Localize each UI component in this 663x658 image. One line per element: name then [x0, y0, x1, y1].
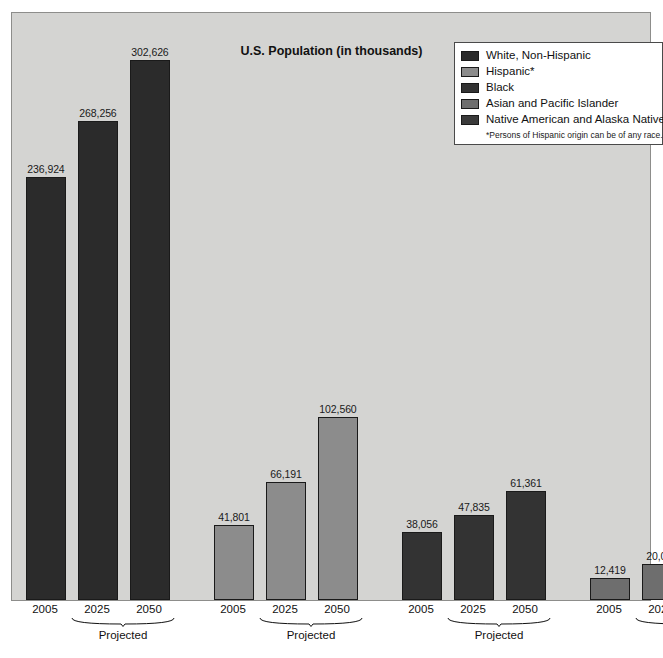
axis-tick-label: 2025 — [443, 603, 503, 615]
axis-tick-label: 2050 — [307, 603, 367, 615]
projected-brace-icon — [635, 618, 663, 627]
bar — [642, 564, 663, 600]
bar — [266, 482, 306, 600]
bar — [214, 525, 254, 600]
legend-item: Native American and Alaska Natives — [461, 112, 656, 127]
bar-value-label: 61,361 — [494, 477, 558, 489]
bar — [130, 60, 170, 600]
legend-item-label: Asian and Pacific Islander — [486, 97, 618, 110]
bar — [506, 491, 546, 600]
projected-label: Projected — [427, 629, 571, 641]
bar-value-label: 38,056 — [390, 518, 454, 530]
x-axis-title: U.S. Population (in thousands) — [0, 44, 663, 58]
axis-tick-label: 2025 — [255, 603, 315, 615]
axis-tick-label: 2050 — [119, 603, 179, 615]
axis-tick-label: 2050 — [495, 603, 555, 615]
legend-item-label: Hispanic* — [486, 65, 535, 78]
legend-items: White, Non-HispanicHispanic*BlackAsian a… — [461, 48, 656, 127]
legend-swatch-icon — [461, 83, 479, 93]
projected-brace-icon — [71, 618, 175, 627]
axis-tick-label: 2005 — [15, 603, 75, 615]
projected-label: Projected — [51, 629, 195, 641]
projected-brace-icon — [259, 618, 363, 627]
bar — [454, 515, 494, 600]
legend-item-label: Native American and Alaska Natives — [486, 113, 663, 126]
projected-brace-icon — [447, 618, 551, 627]
bar-value-label: 102,560 — [306, 403, 370, 415]
bar-chart: 236,924268,256302,62641,80166,191102,560… — [0, 0, 663, 658]
bar — [590, 578, 630, 600]
legend-swatch-icon — [461, 115, 479, 125]
legend-swatch-icon — [461, 99, 479, 109]
legend-item-label: Black — [486, 81, 514, 94]
bar-value-label: 66,191 — [254, 468, 318, 480]
bar-value-label: 12,419 — [578, 564, 642, 576]
bar-value-label: 47,835 — [442, 501, 506, 513]
axis-tick-label: 2025 — [67, 603, 127, 615]
bar-value-label: 268,256 — [66, 107, 130, 119]
projected-label: Projected — [615, 629, 663, 641]
bar-value-label: 20,089 — [630, 550, 663, 562]
legend-item: Hispanic* — [461, 64, 656, 79]
legend-footnote: *Persons of Hispanic origin can be of an… — [486, 130, 656, 140]
plot-area: 236,924268,256302,62641,80166,191102,560… — [11, 12, 651, 601]
bar — [26, 177, 66, 600]
axis-tick-label: 2005 — [391, 603, 451, 615]
bar — [78, 121, 118, 600]
axis-tick-label: 2005 — [579, 603, 639, 615]
bar — [318, 417, 358, 600]
bar-value-label: 41,801 — [202, 511, 266, 523]
bar-value-label: 236,924 — [14, 163, 78, 175]
legend-swatch-icon — [461, 67, 479, 77]
axis-tick-label: 2025 — [631, 603, 663, 615]
legend-item: Asian and Pacific Islander — [461, 96, 656, 111]
axis-tick-label: 2005 — [203, 603, 263, 615]
projected-label: Projected — [239, 629, 383, 641]
bar — [402, 532, 442, 600]
x-axis: 200520252050Projected200520252050Project… — [11, 601, 651, 658]
legend-item: Black — [461, 80, 656, 95]
